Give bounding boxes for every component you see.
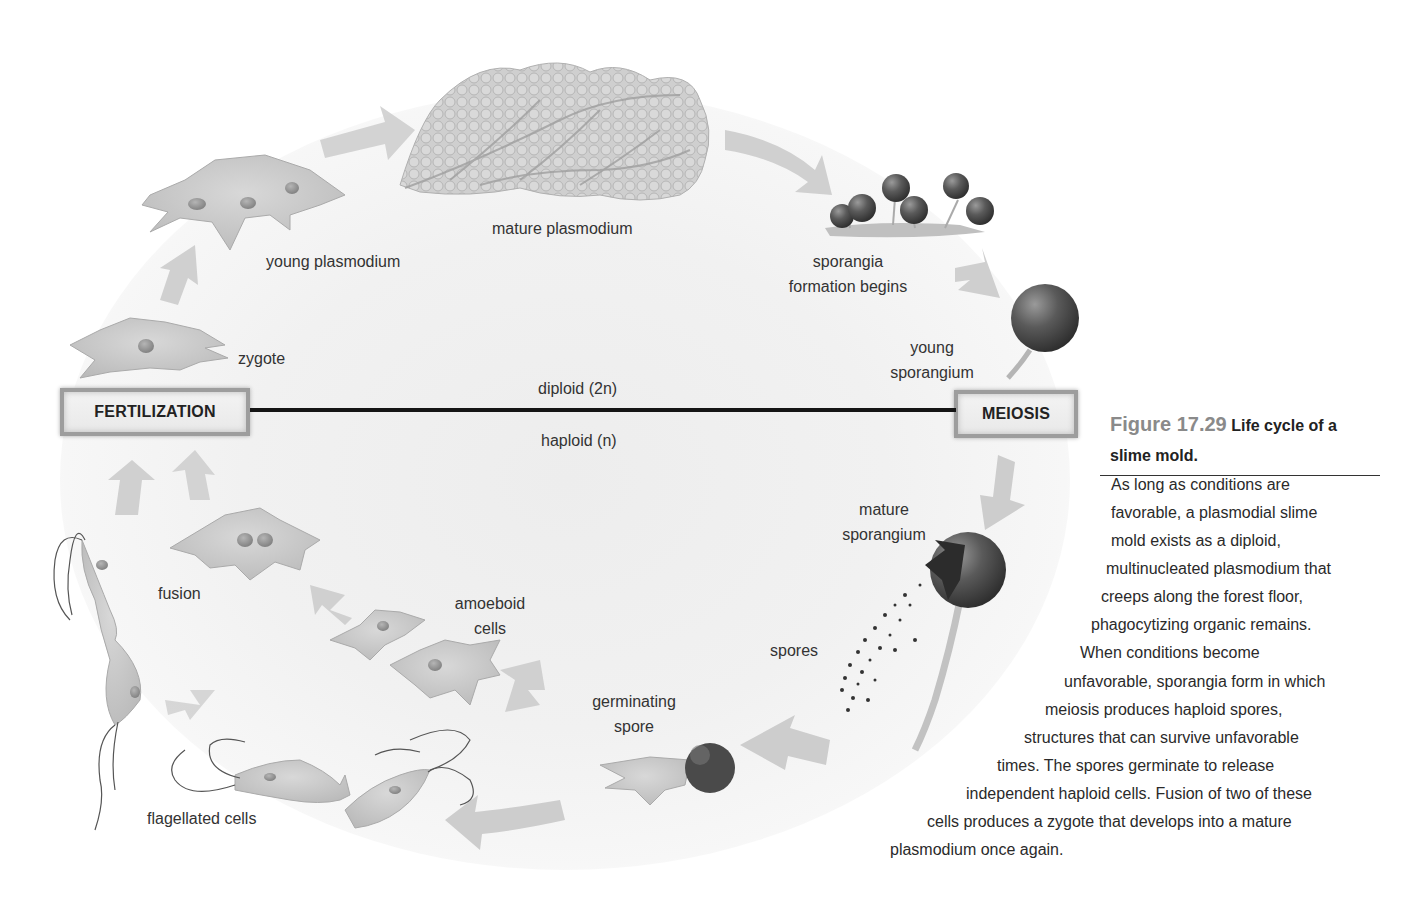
sporangia-formation-illustration [825, 173, 994, 237]
fusing-flagellated-cells-illustration [54, 533, 141, 830]
mature-sporangium-line2: sporangium [834, 522, 934, 547]
meiosis-box: MEIOSIS [954, 390, 1078, 438]
fusion-illustration [170, 508, 320, 580]
mature-sporangium-line1: mature [834, 497, 934, 522]
sporangia-formation-line1: sporangia [778, 249, 918, 274]
amoeboid-cells-label: amoeboid cells [440, 591, 540, 641]
fusion-label: fusion [158, 581, 201, 606]
zygote-illustration [70, 318, 228, 378]
young-plasmodium-illustration [142, 155, 345, 250]
caption-line: structures that can survive unfavorable [1024, 729, 1299, 747]
mature-sporangium-label: mature sporangium [834, 497, 934, 547]
caption-line: meiosis produces haploid spores, [1045, 701, 1282, 719]
amoeboid-cells-line2: cells [440, 616, 540, 641]
figure-caption: Figure 17.29 Life cycle of a slime mold. [1100, 405, 1380, 476]
caption-line: phagocytizing organic remains. [1091, 616, 1312, 634]
amoeboid-cells-line1: amoeboid [440, 591, 540, 616]
germinating-spore-illustration [600, 743, 735, 805]
sporangia-formation-label: sporangia formation begins [778, 249, 918, 299]
spores-label: spores [770, 638, 818, 663]
caption-line: When conditions become [1080, 644, 1260, 662]
flagellated-cells-label: flagellated cells [147, 806, 256, 831]
figure-title-line1: Life cycle of a [1231, 417, 1337, 434]
caption-line: plasmodium once again. [890, 841, 1063, 859]
fertilization-box: FERTILIZATION [60, 388, 250, 436]
young-plasmodium-label: young plasmodium [266, 249, 400, 274]
caption-line: creeps along the forest floor, [1101, 588, 1303, 606]
fertilization-label: FERTILIZATION [94, 403, 215, 421]
spores-illustration [840, 584, 922, 713]
caption-line: cells produces a zygote that develops in… [927, 813, 1292, 831]
zygote-label: zygote [238, 346, 285, 371]
sporangia-formation-line2: formation begins [778, 274, 918, 299]
mature-sporangium-illustration [915, 532, 1006, 750]
figure-number: Figure 17.29 [1110, 413, 1227, 435]
young-sporangium-line2: sporangium [882, 360, 982, 385]
young-sporangium-label: young sporangium [882, 335, 982, 385]
mature-plasmodium-illustration [400, 63, 709, 200]
caption-line: independent haploid cells. Fusion of two… [966, 785, 1312, 803]
caption-heading: Figure 17.29 Life cycle of a slime mold. [1100, 405, 1380, 476]
caption-line: As long as conditions are [1111, 476, 1290, 494]
meiosis-label: MEIOSIS [982, 405, 1050, 423]
germinating-spore-label: germinating spore [584, 689, 684, 739]
young-sporangium-line1: young [882, 335, 982, 360]
caption-line: unfavorable, sporangia form in which [1064, 673, 1325, 691]
haploid-label: haploid (n) [541, 428, 617, 453]
caption-line: multinucleated plasmodium that [1106, 560, 1331, 578]
germinating-spore-line2: spore [584, 714, 684, 739]
ploidy-divider-line [250, 408, 956, 412]
caption-line: mold exists as a diploid, [1111, 532, 1281, 550]
diploid-label: diploid (2n) [538, 376, 617, 401]
germinating-spore-line1: germinating [584, 689, 684, 714]
figure-title-line2: slime mold. [1110, 447, 1198, 464]
mature-plasmodium-label: mature plasmodium [492, 216, 633, 241]
caption-line: times. The spores germinate to release [997, 757, 1274, 775]
caption-line: favorable, a plasmodial slime [1111, 504, 1317, 522]
young-sporangium-illustration [1008, 284, 1079, 378]
slime-mold-life-cycle-diagram: FERTILIZATION MEIOSIS diploid (2n) haplo… [0, 0, 1100, 905]
